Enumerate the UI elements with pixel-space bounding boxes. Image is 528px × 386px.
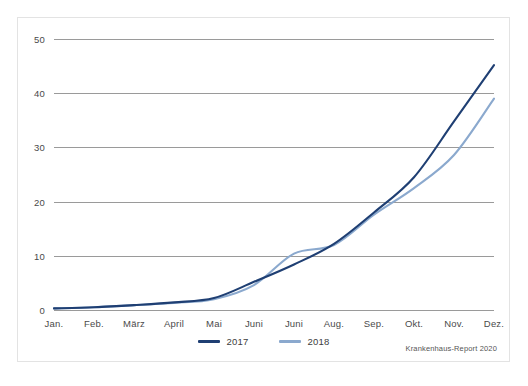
gridline-0: [54, 310, 494, 311]
y-tick-label-50: 50: [34, 34, 45, 45]
series-line-2017: [54, 65, 494, 308]
y-tick-label-40: 40: [34, 88, 45, 99]
legend-swatch-icon-2017: [198, 340, 220, 342]
y-tick-label-0: 0: [40, 305, 45, 316]
x-tick-label-10: Nov.: [444, 318, 464, 329]
x-tick-label-9: Okt.: [405, 318, 423, 329]
x-tick-label-3: April: [164, 318, 184, 329]
x-tick-label-7: Aug.: [324, 318, 344, 329]
plot-area: 01020304050 Jan.Feb.MärzAprilMaiJuniJuni…: [54, 39, 494, 310]
legend-label-2018: 2018: [308, 336, 330, 347]
x-tick-label-1: Feb.: [84, 318, 104, 329]
legend-label-2017: 2017: [227, 336, 249, 347]
legend-item-2017[interactable]: 2017: [198, 336, 249, 347]
source-note: Krankenhaus-Report 2020: [406, 344, 497, 353]
x-tick-label-4: Mai: [206, 318, 222, 329]
x-tick-label-11: Dez.: [484, 318, 504, 329]
legend-item-2018[interactable]: 2018: [279, 336, 330, 347]
series-line-2018: [54, 99, 494, 309]
y-tick-label-10: 10: [34, 250, 45, 261]
x-tick-label-8: Sep.: [364, 318, 384, 329]
y-tick-label-20: 20: [34, 196, 45, 207]
series-lines: [54, 39, 494, 310]
x-tick-label-2: März: [123, 318, 145, 329]
chart-card: 01020304050 Jan.Feb.MärzAprilMaiJuniJuni…: [17, 17, 510, 362]
x-tick-label-5: Juni: [245, 318, 263, 329]
x-tick-label-6: Juni: [285, 318, 303, 329]
legend-swatch-icon-2018: [279, 340, 301, 342]
y-tick-label-30: 30: [34, 142, 45, 153]
x-tick-label-0: Jan.: [45, 318, 64, 329]
